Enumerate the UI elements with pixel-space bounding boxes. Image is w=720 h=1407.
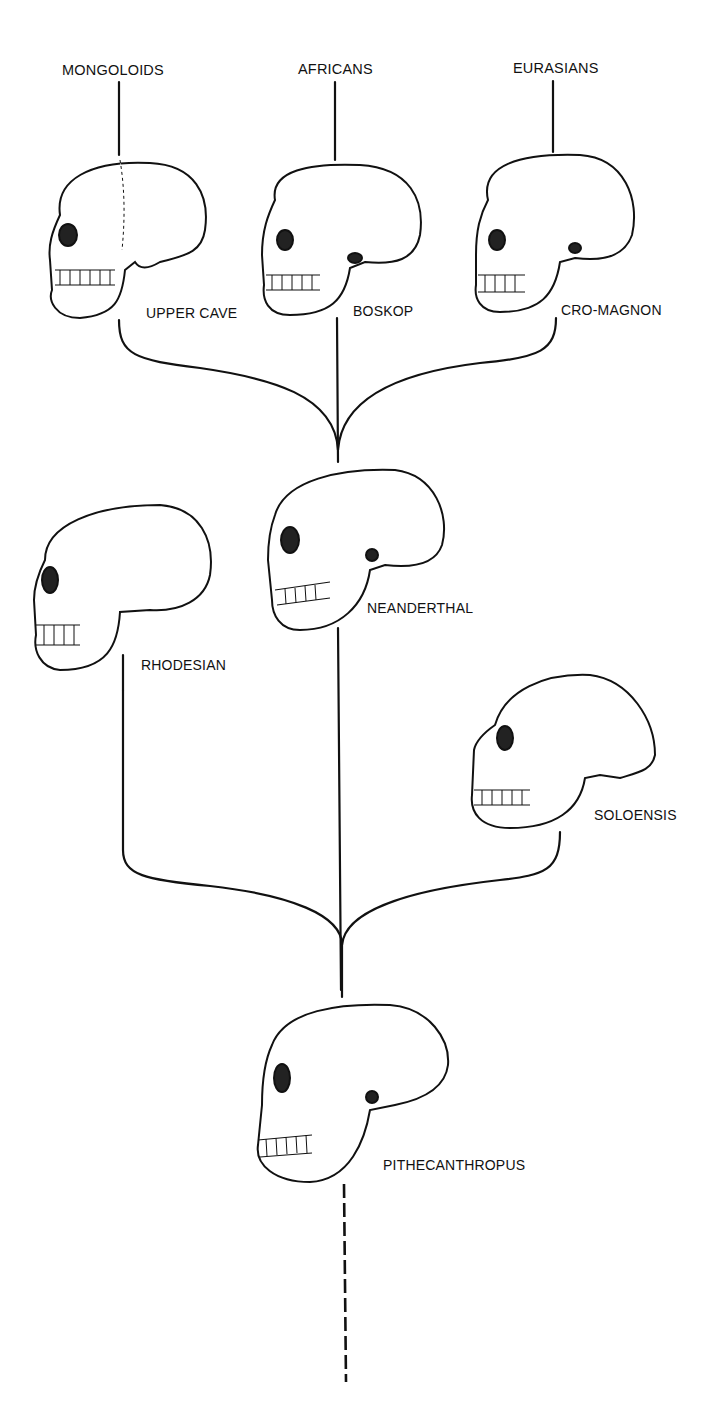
dashed-ancestry-line bbox=[344, 1184, 346, 1382]
label-rhodesian: RHODESIAN bbox=[141, 657, 226, 673]
skull-rhodesian bbox=[34, 505, 211, 670]
branch-lower-right bbox=[342, 832, 560, 945]
branch-lower-left bbox=[123, 690, 342, 945]
label-mongoloids: MONGOLOIDS bbox=[62, 62, 164, 78]
label-soloensis: SOLOENSIS bbox=[594, 807, 677, 823]
label-eurasians: EURASIANS bbox=[513, 60, 599, 76]
skull-pithecanthropus bbox=[258, 1005, 448, 1182]
branch-upper-right bbox=[338, 318, 556, 450]
label-upper-cave: UPPER CAVE bbox=[146, 305, 237, 321]
label-boskop: BOSKOP bbox=[353, 303, 413, 319]
label-pithecanthropus: PITHECANTHROPUS bbox=[383, 1157, 525, 1173]
label-neanderthal: NEANDERTHAL bbox=[367, 600, 473, 616]
tree-lines bbox=[0, 0, 720, 1407]
skull-upper-cave bbox=[49, 160, 205, 318]
label-africans: AFRICANS bbox=[298, 61, 373, 77]
skull-cro-magnon bbox=[476, 155, 634, 312]
branch-upper-left bbox=[119, 320, 338, 450]
label-cro-magnon: CRO-MAGNON bbox=[561, 302, 662, 318]
skull-boskop bbox=[262, 165, 421, 315]
branch-upper-center bbox=[337, 318, 338, 462]
skull-soloensis bbox=[472, 675, 655, 828]
